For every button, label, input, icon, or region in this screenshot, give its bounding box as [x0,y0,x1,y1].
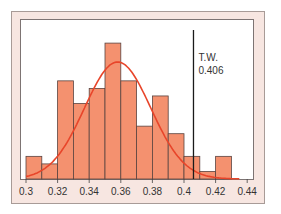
histogram-bar [121,81,137,179]
tw-value: 0.406 [198,65,223,76]
histogram-bar [137,126,153,179]
x-tick-label: 0.3 [19,186,33,197]
x-axis: 0.30.320.340.360.380.40.420.44 [19,179,257,197]
histogram-bars [26,43,231,179]
x-tick-label: 0.32 [48,186,68,197]
histogram-bar [184,156,200,179]
x-tick-label: 0.36 [111,186,131,197]
histogram-bar [216,156,232,179]
histogram-chart: T.W. 0.406 0.30.320.340.360.380.40.420.4… [0,0,281,214]
x-tick-label: 0.42 [206,186,226,197]
x-tick-label: 0.44 [237,186,257,197]
histogram-bar [168,134,184,179]
x-tick-label: 0.34 [79,186,99,197]
histogram-bar [89,88,105,179]
tw-label: T.W. [198,52,217,63]
x-tick-label: 0.38 [143,186,163,197]
histogram-bar [58,81,74,179]
histogram-bar [42,164,58,179]
x-tick-label: 0.4 [177,186,191,197]
